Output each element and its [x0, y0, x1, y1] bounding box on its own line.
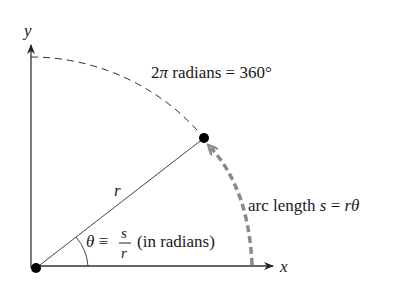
origin-point	[31, 263, 41, 273]
fraction-numerator: s	[121, 225, 127, 241]
arc-end-point	[199, 133, 209, 143]
radian-diagram: y x r 2π radians = 360° arc length s = r…	[0, 0, 409, 286]
fraction-denominator: r	[121, 245, 127, 261]
arc-length-arrow	[211, 148, 252, 265]
y-axis-label: y	[22, 21, 32, 40]
angle-definition-label: θ ≡	[86, 232, 108, 251]
arc-length-label: arc length s = rθ	[248, 196, 359, 215]
full-circle-label: 2π radians = 360°	[151, 63, 272, 82]
in-radians-label: (in radians)	[137, 232, 215, 251]
x-axis-label: x	[279, 257, 288, 276]
radius-label: r	[114, 181, 121, 200]
